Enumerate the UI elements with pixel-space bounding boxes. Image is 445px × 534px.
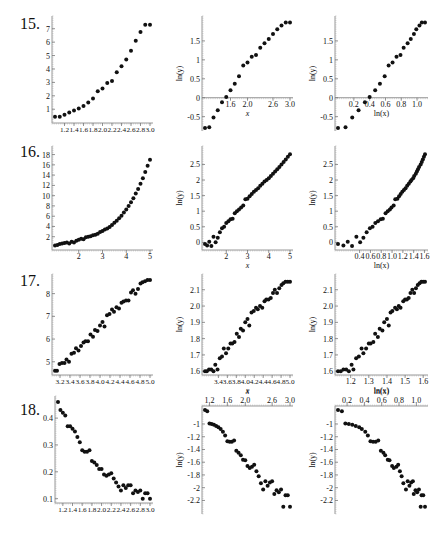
data-point — [241, 328, 245, 332]
data-point — [232, 439, 236, 443]
y-axis-label: ln(y) — [175, 452, 184, 468]
data-point — [388, 458, 392, 462]
data-point — [139, 182, 143, 186]
x-tick-label: 1.6 — [419, 252, 429, 261]
y-tick-label: -1.2 — [320, 433, 333, 442]
y-tick-label: 1.8 — [323, 335, 333, 344]
data-point — [117, 485, 121, 489]
data-point — [261, 488, 265, 492]
data-point — [148, 158, 152, 162]
data-point — [207, 125, 211, 129]
data-point — [398, 53, 402, 57]
data-point — [250, 55, 254, 59]
data-point — [275, 291, 279, 295]
x-tick-label: 2.0 — [240, 396, 250, 405]
x-tick-label: 4.6 — [126, 378, 136, 386]
data-point — [205, 243, 209, 247]
data-point — [246, 317, 250, 321]
data-point — [63, 361, 67, 365]
y-axis-label: ln(y) — [175, 190, 184, 206]
scatter-plot-18a: 0.10.20.30.41.21.41.61.82.02.22.42.62.83… — [43, 396, 155, 514]
x-tick-label: 3.0 — [285, 100, 295, 109]
data-point — [134, 39, 138, 43]
data-point — [344, 125, 348, 129]
data-point — [129, 49, 133, 53]
y-tick-label: 0 — [196, 94, 200, 103]
x-tick-label: 1.6 — [78, 506, 88, 514]
data-point — [115, 70, 119, 74]
data-point — [272, 492, 276, 496]
scatter-plot-15a: 12345671.21.41.61.82.02.22.42.62.83.0 — [46, 16, 155, 134]
x-tick-label: 1.4 — [70, 126, 80, 134]
data-point — [406, 41, 410, 45]
x-tick-label: 4.2 — [106, 378, 116, 386]
data-point — [341, 243, 345, 247]
y-tick-label: 5 — [46, 52, 50, 61]
y-tick-label: 2 — [329, 176, 333, 185]
data-point — [237, 74, 241, 78]
y-tick-label: -1.8 — [320, 471, 333, 480]
y-tick-label: 0.5 — [323, 223, 333, 232]
data-point — [267, 37, 271, 41]
data-point — [212, 235, 216, 239]
data-point — [391, 61, 395, 65]
data-point — [222, 225, 226, 229]
data-point — [387, 64, 391, 68]
scatter-plot-18b: -1-1.2-1.4-1.6-1.8-2-2.21.21.62.02.63.0x… — [175, 387, 295, 514]
y-tick-label: -2.2 — [187, 496, 200, 505]
data-point — [347, 422, 351, 426]
x-tick-label: 4 — [267, 252, 271, 261]
y-tick-label: 1.7 — [323, 351, 333, 360]
data-point — [127, 204, 131, 208]
data-point — [136, 187, 140, 191]
y-tick-label: 1.6 — [190, 367, 200, 376]
data-point — [110, 79, 114, 83]
x-tick-label: 3 — [246, 252, 250, 261]
x-tick-label: 2 — [77, 252, 81, 261]
data-point — [243, 320, 247, 324]
data-point — [55, 369, 59, 373]
data-point — [119, 489, 123, 493]
data-point — [401, 481, 405, 485]
data-point — [56, 400, 60, 404]
data-point — [73, 430, 77, 434]
data-point — [129, 483, 133, 487]
y-tick-label: 0 — [329, 94, 333, 103]
data-point — [396, 463, 400, 467]
data-point — [373, 88, 377, 92]
data-point — [270, 479, 274, 483]
data-point — [221, 430, 225, 434]
data-point — [101, 320, 105, 324]
data-point — [281, 505, 285, 509]
x-tick-label: 2.6 — [126, 506, 136, 514]
y-tick-label: 8 — [46, 290, 50, 299]
data-point — [229, 88, 233, 92]
data-point — [373, 332, 377, 336]
x-tick-label: 2.8 — [136, 126, 146, 134]
data-point — [98, 323, 102, 327]
scatter-plot-18c: -1-1.2-1.4-1.6-1.8-2-2.20.20.40.60.81.0l… — [308, 387, 428, 514]
y-tick-label: -0.5 — [320, 113, 333, 122]
x-tick-label: 1.8 — [87, 506, 97, 514]
data-point — [212, 115, 216, 119]
x-tick-label: 0.6 — [380, 100, 390, 109]
y-tick-label: 1.7 — [190, 351, 200, 360]
x-tick-label: 1.6 — [418, 377, 428, 386]
data-point — [406, 479, 410, 483]
data-point — [423, 280, 427, 284]
data-point — [378, 82, 382, 86]
data-point — [412, 291, 416, 295]
data-point — [96, 89, 100, 93]
y-tick-label: 1.5 — [323, 192, 333, 201]
data-point — [134, 192, 138, 196]
data-point — [63, 413, 67, 417]
data-point — [366, 433, 370, 437]
data-point — [423, 505, 427, 509]
data-point — [222, 346, 226, 350]
y-tick-label: 5 — [46, 358, 50, 367]
data-point — [109, 471, 113, 475]
data-point — [263, 41, 267, 45]
y-tick-label: -1.4 — [320, 445, 333, 454]
data-point — [284, 20, 288, 24]
data-point — [141, 497, 145, 501]
